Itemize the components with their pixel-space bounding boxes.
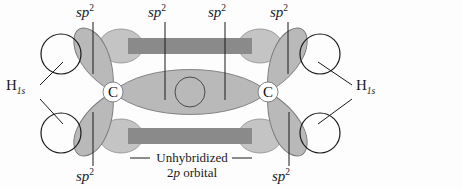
sp2-label-superscript: 2 xyxy=(89,167,94,177)
hydrogen-label-text: H xyxy=(6,77,17,93)
callout-line-2: 2p orbital xyxy=(152,166,232,179)
sp2-label-text: sp xyxy=(272,168,285,184)
hydrogen-label-right: H1s xyxy=(356,78,375,97)
hydrogen-label-subscript: 1s xyxy=(367,86,375,96)
sp2-label-bottom-left: sp2 xyxy=(76,168,94,184)
hydrogen-label-text: H xyxy=(356,77,367,93)
sigma-overlap-lens xyxy=(113,70,268,115)
hydrogen-label-subscript: 1s xyxy=(17,86,25,96)
sp2-label-text: sp xyxy=(208,4,221,20)
carbon-label-right: C xyxy=(261,85,275,100)
sp2-label-top-right-outer: sp2 xyxy=(270,4,288,20)
sigma-bond-overlap xyxy=(113,70,268,115)
sp2-label-superscript: 2 xyxy=(285,167,290,177)
hydrogen-label-left: H1s xyxy=(6,78,25,97)
unhybridized-2p-callout: Unhybridized 2p orbital xyxy=(152,151,232,179)
sp2-label-superscript: 2 xyxy=(89,3,94,13)
sp2-label-top-left-outer: sp2 xyxy=(76,4,94,20)
sp2-label-text: sp xyxy=(270,4,283,20)
sp2-label-text: sp xyxy=(76,4,89,20)
sp2-label-text: sp xyxy=(148,4,161,20)
sp2-label-superscript: 2 xyxy=(283,3,288,13)
callout-line-1: Unhybridized xyxy=(152,151,232,164)
sp2-label-superscript: 2 xyxy=(161,3,166,13)
callout-line-2-suffix: orbital xyxy=(180,165,217,180)
carbon-label-left: C xyxy=(106,85,120,100)
sp2-label-bottom-right: sp2 xyxy=(272,168,290,184)
h1s-upper-left xyxy=(41,34,81,74)
pi-bar-bottom xyxy=(128,128,252,144)
orbital-diagram-figure: C C sp2 sp2 sp2 sp2 sp2 sp2 H1s H1s Unhy… xyxy=(0,0,462,189)
h1s-upper-right xyxy=(300,34,340,74)
pi-bar-top xyxy=(128,38,252,54)
sp2-label-superscript: 2 xyxy=(221,3,226,13)
sp2-label-text: sp xyxy=(76,168,89,184)
sp2-label-top-right-inner: sp2 xyxy=(208,4,226,20)
sp2-label-top-left-inner: sp2 xyxy=(148,4,166,20)
h-leader-lower-left xyxy=(40,99,63,124)
